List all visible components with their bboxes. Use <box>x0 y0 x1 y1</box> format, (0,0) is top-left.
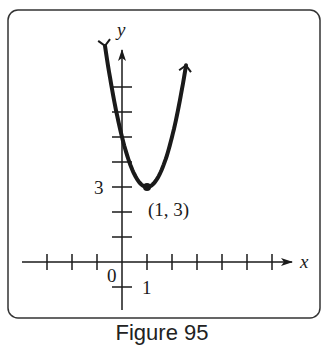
x-tick-label-1: 1 <box>142 277 152 298</box>
vertex-label: (1, 3) <box>148 199 189 221</box>
x-axis-label: x <box>299 251 309 272</box>
vertex-point <box>143 183 151 191</box>
parabola-curve <box>105 46 186 187</box>
axis-ticks <box>47 87 272 287</box>
y-axis-label: y <box>115 19 126 40</box>
y-tick-label-3: 3 <box>94 177 104 198</box>
origin-label: 0 <box>107 265 117 286</box>
figure-caption: Figure 95 <box>0 322 324 344</box>
